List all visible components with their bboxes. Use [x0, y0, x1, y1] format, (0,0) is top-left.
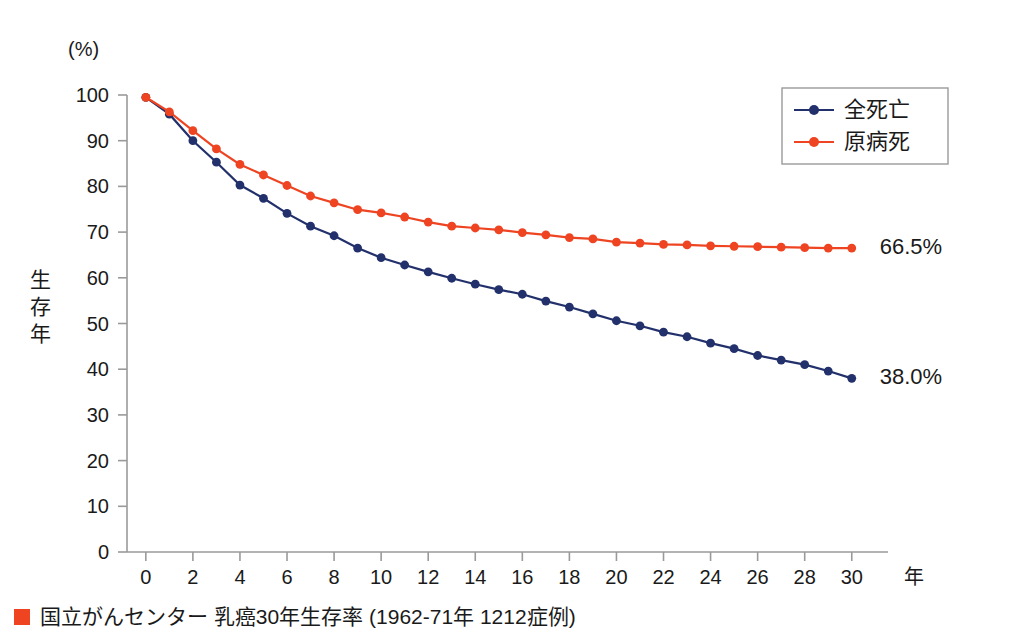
legend-marker-dot — [809, 105, 819, 115]
data-point-marker — [353, 205, 362, 214]
data-point-marker — [659, 328, 668, 337]
y-axis-title-char: 年 — [30, 322, 51, 345]
data-point-marker — [424, 218, 433, 227]
data-point-marker — [824, 367, 833, 376]
x-tick-label: 12 — [417, 566, 439, 588]
x-tick-label: 18 — [558, 566, 580, 588]
data-point-marker — [565, 303, 574, 312]
data-point-marker — [824, 244, 833, 253]
data-point-marker — [306, 222, 315, 231]
chart-caption: 国立がんセンター 乳癌30年生存率 (1962-71年 1212症例) — [14, 606, 576, 627]
data-point-marker — [353, 244, 362, 253]
series-layer — [141, 93, 856, 383]
data-point-marker — [518, 228, 527, 237]
data-point-marker — [494, 285, 503, 294]
data-point-marker — [424, 267, 433, 276]
data-point-marker — [188, 126, 197, 135]
caption-text: 国立がんセンター 乳癌30年生存率 (1962-71年 1212症例) — [40, 606, 576, 627]
data-point-marker — [188, 136, 197, 145]
data-point-marker — [541, 230, 550, 239]
x-tick-label: 8 — [329, 566, 340, 588]
data-point-marker — [847, 374, 856, 383]
data-point-marker — [706, 241, 715, 250]
y-axis-title-char: 生 — [30, 268, 51, 291]
x-tick-label: 26 — [747, 566, 769, 588]
data-point-marker — [612, 238, 621, 247]
x-tick-label: 16 — [511, 566, 533, 588]
chart-canvas: 0102030405060708090100024681012141618202… — [0, 0, 1015, 630]
data-point-marker — [330, 198, 339, 207]
series-line-0 — [146, 97, 852, 378]
survival-curve-chart: 0102030405060708090100024681012141618202… — [0, 0, 1015, 630]
legend-marker-dot — [809, 137, 819, 147]
annotations-layer: 38.0%66.5% — [880, 234, 942, 389]
data-point-marker — [753, 351, 762, 360]
data-point-marker — [541, 297, 550, 306]
legend-label-0: 全死亡 — [844, 97, 910, 122]
data-point-marker — [753, 242, 762, 251]
x-tick-label: 20 — [605, 566, 627, 588]
x-tick-label: 28 — [794, 566, 816, 588]
data-point-marker — [706, 339, 715, 348]
data-point-marker — [471, 224, 480, 233]
y-tick-label: 0 — [98, 541, 109, 563]
data-point-marker — [400, 261, 409, 270]
data-point-marker — [683, 241, 692, 250]
data-point-marker — [636, 239, 645, 248]
x-tick-label: 2 — [187, 566, 198, 588]
data-point-marker — [730, 344, 739, 353]
data-point-marker — [400, 213, 409, 222]
chart-legend: 全死亡原病死 — [782, 88, 948, 164]
data-point-marker — [589, 235, 598, 244]
y-tick-label: 100 — [76, 84, 109, 106]
x-tick-label: 10 — [370, 566, 392, 588]
data-point-marker — [565, 233, 574, 242]
data-point-marker — [777, 243, 786, 252]
data-point-marker — [847, 244, 856, 253]
x-tick-label: 4 — [234, 566, 245, 588]
data-point-marker — [330, 231, 339, 240]
y-tick-label: 80 — [87, 175, 109, 197]
data-point-marker — [612, 316, 621, 325]
data-point-marker — [494, 225, 503, 234]
data-point-marker — [447, 222, 456, 231]
y-tick-label: 30 — [87, 404, 109, 426]
y-tick-label: 60 — [87, 267, 109, 289]
data-point-marker — [283, 181, 292, 190]
x-tick-label: 14 — [464, 566, 486, 588]
data-point-marker — [636, 321, 645, 330]
data-point-marker — [212, 145, 221, 154]
y-tick-label: 50 — [87, 313, 109, 335]
data-point-marker — [236, 160, 245, 169]
axes-layer: 0102030405060708090100024681012141618202… — [76, 84, 888, 588]
data-point-marker — [800, 243, 809, 252]
y-tick-label: 90 — [87, 130, 109, 152]
y-tick-label: 10 — [87, 495, 109, 517]
data-point-marker — [236, 181, 245, 190]
data-point-marker — [447, 274, 456, 283]
data-point-marker — [141, 93, 150, 102]
data-point-marker — [471, 280, 480, 289]
y-tick-label: 70 — [87, 221, 109, 243]
data-point-marker — [777, 356, 786, 365]
y-axis-unit-label: (%) — [68, 38, 99, 60]
data-point-marker — [259, 194, 268, 203]
x-axis-unit-label: 年 — [904, 566, 924, 588]
legend-label-1: 原病死 — [844, 129, 910, 154]
y-axis-title-char: 存 — [30, 295, 51, 318]
end-label-0: 38.0% — [880, 364, 942, 389]
data-point-marker — [259, 171, 268, 180]
caption-marker-icon — [14, 609, 30, 625]
data-point-marker — [283, 209, 292, 218]
x-tick-label: 22 — [652, 566, 674, 588]
data-point-marker — [518, 290, 527, 299]
x-tick-label: 0 — [140, 566, 151, 588]
data-point-marker — [683, 332, 692, 341]
data-point-marker — [377, 253, 386, 262]
data-point-marker — [377, 209, 386, 218]
x-tick-label: 6 — [281, 566, 292, 588]
data-point-marker — [306, 192, 315, 201]
data-point-marker — [730, 242, 739, 251]
x-tick-label: 24 — [699, 566, 721, 588]
x-tick-label: 30 — [841, 566, 863, 588]
